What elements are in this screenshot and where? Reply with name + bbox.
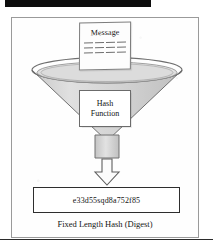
document-text-row xyxy=(84,52,126,54)
document-text-dash xyxy=(95,47,104,48)
digest-caption: Fixed Length Hash (Digest) xyxy=(11,219,199,229)
document-text-dash xyxy=(95,52,104,53)
document-text-dash xyxy=(106,42,115,43)
hash-function-label-line1: Hash xyxy=(97,99,113,109)
message-document-label: Message xyxy=(80,27,130,37)
document-text-dash xyxy=(84,47,93,48)
hash-function-label-line2: Function xyxy=(91,109,119,119)
document-text-row xyxy=(84,47,126,49)
hash-result-box: e33d55sqd8a752f85 xyxy=(33,187,180,213)
document-text-dash xyxy=(84,52,93,53)
document-text-dash xyxy=(106,52,115,53)
message-document-text-lines xyxy=(84,42,126,54)
hash-function-box: Hash Function xyxy=(79,90,131,127)
scan-artifact-bottom-rule xyxy=(0,239,213,240)
message-document: Message xyxy=(79,21,131,70)
scan-artifact-top-bar xyxy=(5,0,151,7)
document-text-dash xyxy=(117,47,126,48)
document-text-row xyxy=(84,42,126,44)
document-text-dash xyxy=(95,42,104,43)
document-text-dash xyxy=(117,52,126,53)
document-text-dash xyxy=(84,42,93,43)
document-text-dash xyxy=(117,42,126,43)
document-text-dash xyxy=(106,47,115,48)
down-arrow-icon xyxy=(92,158,122,186)
hash-value-text: e33d55sqd8a752f85 xyxy=(73,196,140,205)
